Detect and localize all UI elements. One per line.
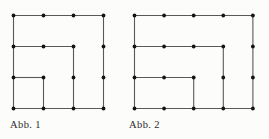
figure-abb-1: [7, 9, 110, 115]
dot-grid-diagram-1: [7, 9, 110, 115]
dot-grid-diagram-2: [128, 9, 259, 115]
page: Abb. 1 Abb. 2: [0, 0, 269, 139]
figure-abb-2: [128, 9, 259, 115]
figure-2-label: Abb. 2: [129, 119, 160, 130]
figure-1-label: Abb. 1: [10, 119, 41, 130]
